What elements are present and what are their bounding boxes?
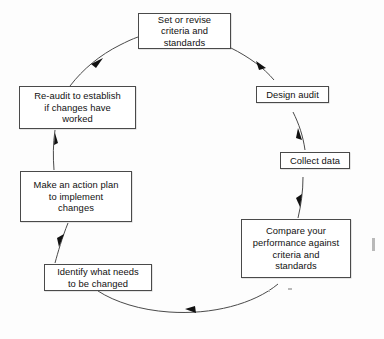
edge-re-audit-to-set-criteria [70,37,138,86]
audit-cycle-diagram: Set or revise criteria and standards Des… [0,0,384,339]
edge-make-plan-to-identify [55,223,68,263]
node-label: Identify what needs to be changed [57,266,139,289]
node-identify-what-needs-to-be-changed[interactable]: Identify what needs to be changed [44,264,152,291]
node-collect-data[interactable]: Collect data [280,152,350,169]
node-label: Design audit [266,89,319,101]
node-label: Collect data [290,155,340,167]
node-label: Compare your performance against criteri… [253,225,339,271]
node-set-or-revise-criteria-and-standards[interactable]: Set or revise criteria and standards [138,13,231,49]
edge-set-criteria-to-design-audit [231,48,274,80]
scan-artifact-speck [288,288,292,290]
scan-artifact-speck [372,238,375,251]
node-label: Set or revise criteria and standards [158,14,211,49]
node-label: Re-audit to establish if changes have wo… [34,90,121,125]
node-re-audit-to-establish[interactable]: Re-audit to establish if changes have wo… [19,86,136,129]
arrowhead-set-criteria-to-design-audit [256,61,266,70]
node-design-audit[interactable]: Design audit [256,86,329,103]
node-make-an-action-plan[interactable]: Make an action plan to implement changes [20,171,132,222]
node-label: Make an action plan to implement changes [34,179,119,214]
node-compare-your-performance[interactable]: Compare your performance against criteri… [241,219,351,278]
scan-artifact-speck [268,290,270,292]
